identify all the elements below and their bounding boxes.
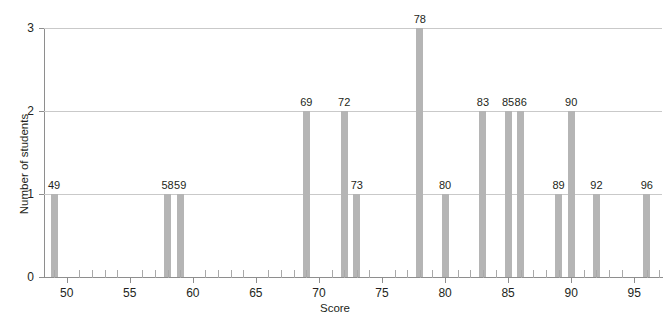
x-tick-label: 70 xyxy=(312,286,325,300)
x-tick-label: 55 xyxy=(123,286,136,300)
x-tick-minor xyxy=(180,270,181,278)
x-tick-minor xyxy=(168,270,169,278)
x-tick-minor xyxy=(79,270,80,278)
histogram-chart: 0123 50556065707580859095 49585969727378… xyxy=(0,0,670,320)
x-tick-minor xyxy=(243,270,244,278)
x-tick-minor xyxy=(54,270,55,278)
x-tick-minor xyxy=(294,270,295,278)
x-tick-minor xyxy=(420,270,421,278)
y-tick-mark-2 xyxy=(39,111,44,112)
x-tick-minor xyxy=(332,270,333,278)
x-axis-line xyxy=(44,277,663,278)
x-tick-minor xyxy=(105,270,106,278)
bar-value-label: 59 xyxy=(174,179,186,191)
bar-value-label: 92 xyxy=(590,179,602,191)
bar xyxy=(51,194,58,277)
bar-value-label: 49 xyxy=(48,179,60,191)
x-tick-minor xyxy=(521,270,522,278)
bar xyxy=(341,111,348,277)
x-tick-minor xyxy=(142,270,143,278)
x-tick-major xyxy=(571,277,572,283)
bar-value-label: 72 xyxy=(338,96,350,108)
bar xyxy=(303,111,310,277)
x-tick-major xyxy=(256,277,257,283)
bar xyxy=(555,194,562,277)
x-axis-title: Score xyxy=(0,302,670,314)
x-tick-minor xyxy=(559,270,560,278)
bar-value-label: 78 xyxy=(414,13,426,25)
y-axis-title: Number of students xyxy=(18,84,30,244)
x-tick-major xyxy=(382,277,383,283)
bar xyxy=(353,194,360,277)
x-tick-minor xyxy=(496,270,497,278)
bar xyxy=(517,111,524,277)
y-tick-label: 0 xyxy=(20,270,34,284)
bar-value-label: 85 xyxy=(502,96,514,108)
x-tick-minor xyxy=(357,270,358,278)
bar-value-label: 73 xyxy=(351,179,363,191)
x-tick-label: 95 xyxy=(628,286,641,300)
x-tick-label: 85 xyxy=(501,286,514,300)
bar-value-label: 90 xyxy=(565,96,577,108)
bar-value-label: 58 xyxy=(161,179,173,191)
x-tick-minor xyxy=(281,270,282,278)
x-tick-minor xyxy=(369,270,370,278)
x-tick-major xyxy=(634,277,635,283)
bar-value-label: 89 xyxy=(552,179,564,191)
x-tick-minor xyxy=(546,270,547,278)
x-tick-label: 50 xyxy=(60,286,73,300)
x-tick-minor xyxy=(92,270,93,278)
x-tick-major xyxy=(319,277,320,283)
x-tick-minor xyxy=(117,270,118,278)
x-tick-minor xyxy=(407,270,408,278)
x-tick-minor xyxy=(596,270,597,278)
x-tick-minor xyxy=(647,270,648,278)
x-tick-minor xyxy=(205,270,206,278)
x-tick-major xyxy=(193,277,194,283)
x-tick-minor xyxy=(306,270,307,278)
bar xyxy=(479,111,486,277)
x-tick-minor xyxy=(470,270,471,278)
gridline-y-3 xyxy=(44,28,662,29)
bar xyxy=(593,194,600,277)
x-tick-minor xyxy=(533,270,534,278)
x-tick-label: 60 xyxy=(186,286,199,300)
bar-value-label: 86 xyxy=(515,96,527,108)
bar xyxy=(164,194,171,277)
bar xyxy=(643,194,650,277)
x-tick-minor xyxy=(609,270,610,278)
y-tick-mark-0 xyxy=(39,277,44,278)
x-tick-major xyxy=(67,277,68,283)
x-tick-minor xyxy=(155,270,156,278)
x-tick-label: 90 xyxy=(565,286,578,300)
x-tick-major xyxy=(130,277,131,283)
y-tick-mark-3 xyxy=(39,28,44,29)
bar-value-label: 96 xyxy=(641,179,653,191)
y-tick-label: 3 xyxy=(20,21,34,35)
bar xyxy=(416,28,423,277)
x-tick-minor xyxy=(584,270,585,278)
x-tick-minor xyxy=(432,270,433,278)
x-tick-minor xyxy=(395,270,396,278)
bar xyxy=(505,111,512,277)
x-tick-major xyxy=(445,277,446,283)
x-tick-minor xyxy=(218,270,219,278)
x-tick-minor xyxy=(268,270,269,278)
bar xyxy=(568,111,575,277)
bar-value-label: 69 xyxy=(300,96,312,108)
bar xyxy=(442,194,449,277)
x-tick-minor xyxy=(622,270,623,278)
x-tick-major xyxy=(508,277,509,283)
bar xyxy=(177,194,184,277)
plot-area xyxy=(44,28,662,277)
x-tick-minor xyxy=(344,270,345,278)
x-tick-minor xyxy=(659,270,660,278)
y-tick-mark-1 xyxy=(39,194,44,195)
x-tick-label: 75 xyxy=(375,286,388,300)
bar-value-label: 83 xyxy=(477,96,489,108)
x-tick-minor xyxy=(483,270,484,278)
x-tick-label: 80 xyxy=(438,286,451,300)
x-tick-minor xyxy=(231,270,232,278)
x-tick-label: 65 xyxy=(249,286,262,300)
x-tick-minor xyxy=(458,270,459,278)
